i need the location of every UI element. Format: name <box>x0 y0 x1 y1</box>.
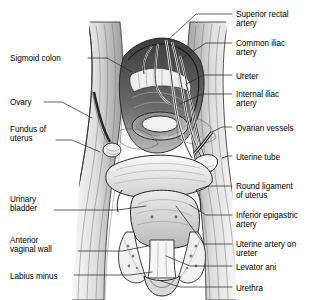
label-common-iliac-artery: Common iliac artery <box>236 39 285 58</box>
label-round-ligament-of-uterus: Round ligament of uterus <box>236 182 293 201</box>
label-superior-rectal-artery: Superior rectal artery <box>236 10 289 29</box>
label-sigmoid-colon: Sigmoid colon <box>10 54 61 63</box>
label-urethra: Urethra <box>236 284 263 293</box>
label-ovarian-vessels: Ovarian vessels <box>236 124 294 133</box>
label-labius-minus: Labius minus <box>10 272 58 281</box>
label-inferior-epigastric-artery: Inferior epigastric artery <box>236 211 298 230</box>
anatomical-figure: Sigmoid colonOvaryFundus of uterusUrinar… <box>0 0 312 300</box>
illustration-body <box>66 22 244 300</box>
label-ureter: Ureter <box>236 72 258 81</box>
label-uterine-tube: Uterine tube <box>236 153 280 162</box>
label-anterior-vaginal-wall: Anterior vaginal wall <box>10 236 52 255</box>
labius-minus-structure <box>144 276 180 296</box>
abdominal-wall-left <box>66 22 123 300</box>
leader-ovary <box>44 102 92 118</box>
label-levator-ani: Levator ani <box>236 263 276 272</box>
label-urinary-bladder: Urinary bladder <box>10 195 37 214</box>
label-ovary: Ovary <box>10 98 32 107</box>
label-fundus-of-uterus: Fundus of uterus <box>10 125 46 144</box>
label-internal-iliac-artery: Internal iliac artery <box>236 90 279 109</box>
label-uterine-artery-on-ureter: Uterine artery on ureter <box>236 240 296 259</box>
